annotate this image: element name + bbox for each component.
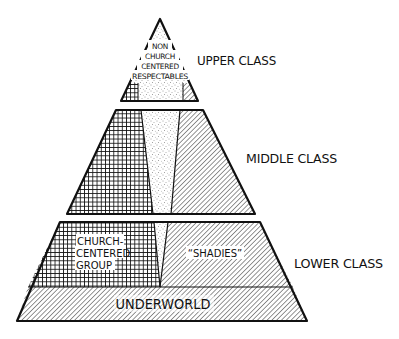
middle-class-label: MIDDLE CLASS bbox=[246, 151, 337, 166]
upper-class-label: UPPER CLASS bbox=[197, 53, 276, 68]
tier-middle-class bbox=[67, 110, 255, 214]
class-structure-pyramid: NON CHURCH CENTERED RESPECTABLES CHURCH-… bbox=[0, 0, 399, 339]
upper-inner-label-line-1: NON bbox=[152, 42, 168, 51]
upper-inner-label-line-2: CHURCH bbox=[145, 52, 175, 61]
lower-class-label: LOWER CLASS bbox=[294, 256, 383, 271]
upper-church-centered-region bbox=[121, 83, 138, 101]
tier-underworld: UNDERWORLD bbox=[17, 287, 307, 321]
tier-lower-class: CHURCH- CENTERED GROUP “SHADIES” bbox=[28, 222, 293, 287]
church-centered-label-line-1: CHURCH- bbox=[77, 236, 124, 247]
tier-upper-class: NON CHURCH CENTERED RESPECTABLES bbox=[121, 19, 198, 101]
upper-inner-label-line-4: RESPECTABLES bbox=[132, 72, 189, 81]
underworld-label: UNDERWORLD bbox=[116, 296, 211, 312]
middle-shadies-region bbox=[171, 110, 255, 214]
church-centered-label-line-3: GROUP bbox=[76, 260, 112, 271]
middle-church-centered-region bbox=[67, 110, 153, 214]
church-centered-label-line-2: CENTERED bbox=[76, 248, 130, 259]
shadies-label: “SHADIES” bbox=[188, 248, 242, 259]
upper-inner-label-line-3: CENTERED bbox=[141, 62, 179, 71]
